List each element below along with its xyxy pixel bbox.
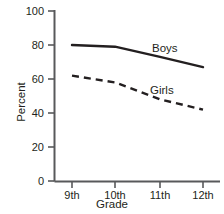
series-line-girls	[72, 76, 203, 110]
y-tick-label-100: 100	[8, 6, 44, 17]
series-line-boys	[72, 45, 203, 67]
line-chart: 100 80 60 40 20 0 9th 10th 11th 12th Per…	[0, 0, 224, 214]
x-axis-title: Grade	[0, 198, 224, 210]
y-tick-label-20: 20	[8, 142, 44, 153]
y-axis-title: Percent	[15, 72, 27, 132]
series-label-boys: Boys	[152, 42, 178, 54]
series-label-girls: Girls	[150, 84, 174, 96]
y-tick-label-80: 80	[8, 40, 44, 51]
y-tick-label-0: 0	[8, 176, 44, 187]
